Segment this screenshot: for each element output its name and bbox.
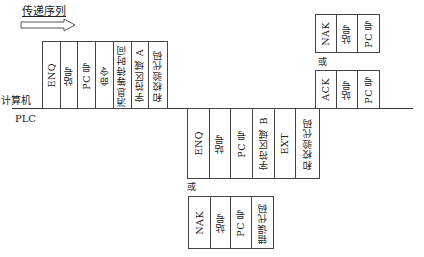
or-label-bottom: 或 — [187, 180, 196, 193]
frame-cell: PC 号 — [231, 197, 252, 248]
frame-cell: PC 号 — [358, 15, 379, 52]
computer-label: 计算机 — [1, 92, 31, 107]
frame-cell: 命令 — [96, 42, 114, 108]
frame-cell: 和校验代码 — [149, 42, 167, 108]
computer-request-frame: ENQ 站号 PC 号 命令 消息等待时间 字符区域 A 和校验代码 — [42, 41, 168, 109]
frame-cell: 字符区域 A — [132, 42, 150, 108]
frame-cell: NAK — [189, 197, 211, 248]
frame-cell: PC 号 — [78, 42, 96, 108]
frame-cell: 字符区域 B — [253, 109, 275, 178]
plc-nak-frame: NAK 站号 PC 号 错误代码 — [188, 196, 274, 249]
computer-ack-frame: ACK 站号 PC 号 — [315, 70, 380, 109]
frame-cell: 站号 — [211, 197, 232, 248]
frame-cell: 消息等待时间 — [114, 42, 132, 108]
frame-cell: ENQ — [188, 109, 210, 178]
right-arrow-icon — [20, 18, 76, 32]
frame-cell: ENQ — [43, 42, 61, 108]
frame-cell: 站号 — [337, 15, 357, 52]
plc-label: PLC — [15, 113, 36, 124]
frame-cell: 错误代码 — [252, 197, 273, 248]
frame-cell: PC 号 — [231, 109, 253, 178]
frame-cell: ACK — [316, 71, 337, 108]
frame-cell: NAK — [316, 15, 337, 52]
frame-cell: 站号 — [61, 42, 79, 108]
computer-nak-frame: NAK 站号 PC 号 — [315, 14, 380, 53]
frame-cell: EXT — [275, 109, 297, 178]
frame-cell: PC 号 — [358, 71, 379, 108]
transfer-sequence-title: 传递序列 — [22, 2, 66, 18]
frame-cell: 站号 — [210, 109, 232, 178]
or-label-top: 或 — [318, 55, 327, 68]
frame-cell: 和校验代码 — [296, 109, 319, 178]
frame-cell: 站号 — [337, 71, 357, 108]
plc-response-frame: ENQ 站号 PC 号 字符区域 B EXT 和校验代码 — [187, 108, 320, 179]
